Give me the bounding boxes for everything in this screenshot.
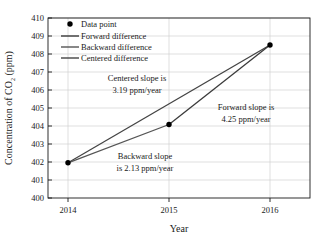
x-axis-ticks — [68, 198, 270, 202]
y-tick-label-404: 404 — [31, 121, 45, 131]
y-tick-label-406: 406 — [31, 85, 44, 95]
y-tick-label-400: 400 — [31, 193, 44, 203]
legend-label-backward-difference: Backward difference — [81, 42, 152, 52]
annotation-forward-line2: 4.25 ppm/year — [221, 114, 270, 124]
data-point-2016 — [267, 42, 272, 47]
legend-label-forward-difference: Forward difference — [81, 31, 146, 41]
data-point-2014 — [65, 160, 70, 165]
annotation-centered-line2: 3.19 ppm/year — [112, 85, 161, 95]
y-tick-label-408: 408 — [31, 49, 44, 59]
annotation-centered-line1: Centered slope is — [108, 73, 167, 83]
x-tick-label-2015: 2015 — [161, 205, 178, 215]
y-axis-title-main: Concentration of CO — [3, 81, 14, 165]
chart-figure: 410 409 408 407 406 405 404 403 402 401 … — [0, 0, 320, 245]
y-axis-ticks — [48, 18, 52, 198]
co2-slope-chart: 410 409 408 407 406 405 404 403 402 401 … — [0, 0, 320, 245]
x-tick-label-2014: 2014 — [60, 205, 78, 215]
annotation-forward-line1: Forward slope is — [218, 102, 275, 112]
legend-marker-data-point — [67, 21, 72, 26]
svg-text:Concentration of CO2 (ppm): Concentration of CO2 (ppm) — [3, 51, 16, 165]
y-tick-label-403: 403 — [31, 139, 44, 149]
annotation-centered-slope: Centered slope is 3.19 ppm/year — [108, 73, 167, 95]
y-axis-title-unit: (ppm) — [3, 51, 15, 78]
y-tick-label-407: 407 — [31, 67, 44, 77]
y-tick-label-405: 405 — [31, 103, 44, 113]
x-tick-label-2016: 2016 — [262, 205, 279, 215]
annotation-backward-line2: is 2.13 ppm/year — [117, 163, 174, 173]
legend-label-data-point: Data point — [81, 19, 117, 29]
y-tick-label-409: 409 — [31, 31, 44, 41]
y-axis-title: Concentration of CO2 (ppm) — [3, 51, 16, 165]
x-axis-title: Year — [170, 223, 189, 234]
annotation-forward-slope: Forward slope is 4.25 ppm/year — [218, 102, 275, 124]
data-point-2015 — [166, 122, 171, 127]
y-tick-label-401: 401 — [31, 175, 44, 185]
legend: Data point Forward difference Backward d… — [61, 19, 152, 63]
y-tick-label-410: 410 — [31, 13, 44, 23]
forward-difference-line — [169, 45, 270, 125]
legend-label-centered-difference: Centered difference — [81, 53, 148, 63]
y-tick-label-402: 402 — [31, 157, 44, 167]
annotation-backward-line1: Backward slope — [118, 151, 173, 161]
